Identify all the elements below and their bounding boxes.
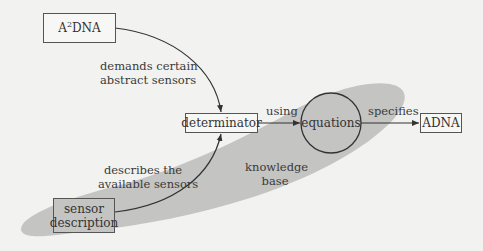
edge-label-demands: demands certain abstract sensors <box>100 59 190 87</box>
edge-label-describes-line2: available sensors <box>98 177 188 191</box>
determinator-label: determinator <box>181 116 261 130</box>
diagram-canvas: A2DNA determinator equations ADNA sensor… <box>0 0 483 251</box>
sensor-description-line1: sensor <box>64 202 104 216</box>
adna-node: ADNA <box>420 113 462 133</box>
determinator-node: determinator <box>185 113 258 133</box>
equations-label: equations <box>301 116 361 130</box>
edge-label-describes-line1: describes the <box>98 163 188 177</box>
edge-label-specifies: specifies <box>368 104 418 118</box>
edge-label-using: using <box>266 104 296 118</box>
adna-label: ADNA <box>422 116 459 130</box>
edge-label-demands-line2: abstract sensors <box>100 73 190 87</box>
edge-label-demands-line1: demands certain <box>100 59 190 73</box>
knowledge-base-label: knowledge base <box>245 160 305 188</box>
edge-label-describes: describes the available sensors <box>98 163 188 191</box>
a2dna-label: A2DNA <box>58 21 101 35</box>
knowledge-base-label-line2: base <box>245 174 305 188</box>
sensor-description-node: sensor description <box>53 198 115 233</box>
sensor-description-line2: description <box>50 216 119 230</box>
a2dna-node: A2DNA <box>43 13 116 43</box>
knowledge-base-label-line1: knowledge <box>245 160 305 174</box>
